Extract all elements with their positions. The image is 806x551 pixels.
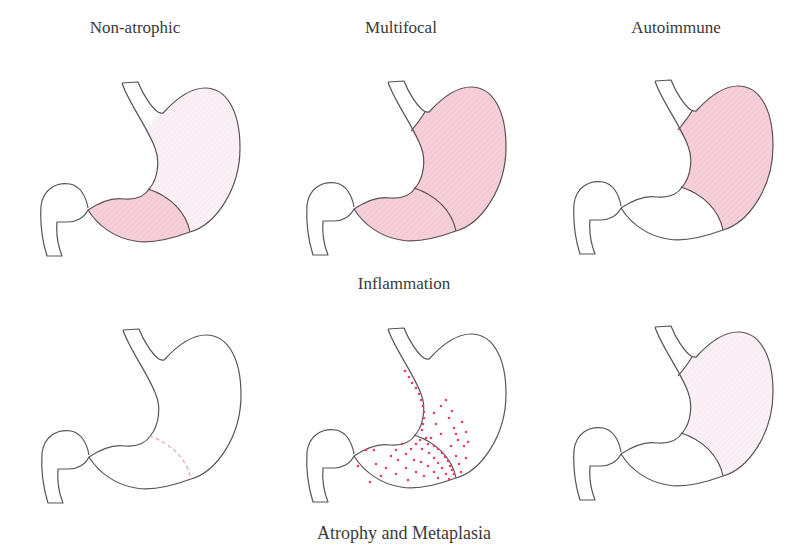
- stomach-diagram: [0, 0, 806, 551]
- panel-multifocal-atrophy: [307, 328, 506, 502]
- panel-autoimmune-atrophy: [574, 326, 773, 500]
- panel-non-atrophic-inflammation: [41, 82, 240, 256]
- panel-non-atrophic-atrophy: [42, 329, 241, 503]
- panel-multifocal-inflammation: [307, 81, 506, 255]
- panel-autoimmune-inflammation: [574, 80, 773, 254]
